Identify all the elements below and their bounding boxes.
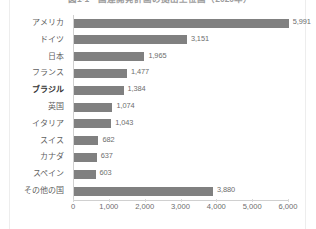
bar bbox=[74, 153, 97, 162]
bar-value-label: 603 bbox=[100, 168, 112, 177]
bar bbox=[74, 69, 127, 78]
chart-title-text: 図1-1 国連開発計画の拠出上位国（2020年） bbox=[62, 0, 258, 4]
bar-row: 5,991 bbox=[73, 15, 288, 32]
bar-row: 1,477 bbox=[73, 65, 288, 82]
bar-value-label: 1,043 bbox=[115, 118, 133, 127]
bar bbox=[74, 52, 144, 61]
category-label: その他の国 bbox=[0, 183, 69, 200]
bar bbox=[74, 170, 96, 179]
category-label: 英国 bbox=[0, 99, 69, 116]
bar-row: 3,880 bbox=[73, 183, 288, 200]
x-tick-label: 0 bbox=[71, 202, 75, 211]
bar-value-label: 1,477 bbox=[131, 67, 149, 76]
x-tick-label: 6,000 bbox=[278, 202, 297, 211]
category-label: スイス bbox=[0, 133, 69, 150]
bar-value-label: 3,151 bbox=[191, 34, 209, 43]
bar-row: 1,384 bbox=[73, 82, 288, 99]
bar-value-label: 5,991 bbox=[293, 17, 311, 26]
category-label: カナダ bbox=[0, 149, 69, 166]
bar bbox=[74, 103, 112, 112]
category-label: ブラジル bbox=[0, 82, 69, 99]
x-tick-label: 4,000 bbox=[207, 202, 226, 211]
chart-title: 図1-1 国連開発計画の拠出上位国（2020年） bbox=[62, 0, 258, 5]
bar-value-label: 1,965 bbox=[148, 51, 166, 60]
bar bbox=[74, 136, 98, 145]
page-frame-right-edge bbox=[305, 0, 306, 229]
bar-row: 1,043 bbox=[73, 116, 288, 133]
bar-row: 682 bbox=[73, 133, 288, 150]
chart-figure: 図1-1 国連開発計画の拠出上位国（2020年） アメリカドイツ日本フランスブラ… bbox=[0, 0, 316, 229]
x-tick-label: 1,000 bbox=[99, 202, 118, 211]
plot-area: 5,9913,1511,9651,4771,3841,0741,04368263… bbox=[73, 15, 288, 200]
category-label: イタリア bbox=[0, 116, 69, 133]
bar-row: 637 bbox=[73, 149, 288, 166]
x-axis-ticks: 01,0002,0003,0004,0005,0006,000 bbox=[73, 202, 288, 216]
bar-row: 3,151 bbox=[73, 32, 288, 49]
x-tick-label: 3,000 bbox=[171, 202, 190, 211]
bar-value-label: 1,384 bbox=[128, 84, 146, 93]
bar bbox=[74, 86, 124, 95]
category-label: ドイツ bbox=[0, 32, 69, 49]
category-label: フランス bbox=[0, 65, 69, 82]
bar bbox=[74, 187, 213, 196]
category-label: スペイン bbox=[0, 166, 69, 183]
category-label: 日本 bbox=[0, 49, 69, 66]
bar-row: 1,965 bbox=[73, 49, 288, 66]
x-tick-label: 2,000 bbox=[135, 202, 154, 211]
bar bbox=[74, 19, 289, 28]
bar bbox=[74, 119, 111, 128]
bar-value-label: 637 bbox=[101, 151, 113, 160]
bar bbox=[74, 35, 187, 44]
category-axis-labels: アメリカドイツ日本フランスブラジル英国イタリアスイスカナダスペインその他の国 bbox=[0, 15, 69, 200]
bar-value-label: 3,880 bbox=[217, 185, 235, 194]
bar-row: 603 bbox=[73, 166, 288, 183]
x-tick-label: 5,000 bbox=[243, 202, 262, 211]
bar-value-label: 682 bbox=[102, 135, 114, 144]
category-label: アメリカ bbox=[0, 15, 69, 32]
bar-value-label: 1,074 bbox=[116, 101, 134, 110]
bar-series: 5,9913,1511,9651,4771,3841,0741,04368263… bbox=[73, 15, 288, 200]
bar-row: 1,074 bbox=[73, 99, 288, 116]
